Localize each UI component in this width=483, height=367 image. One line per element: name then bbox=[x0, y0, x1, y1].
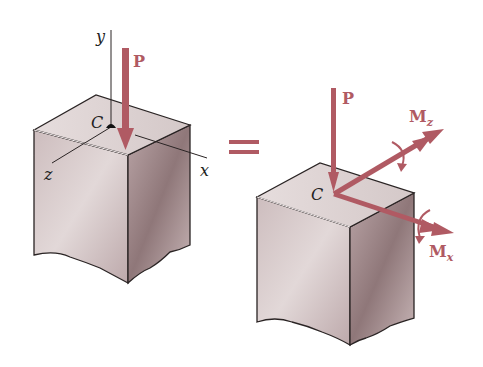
moment-mx-label: Mx bbox=[429, 242, 454, 264]
free-body-diagram: y P C x z P C Mz Mx bbox=[0, 0, 483, 367]
left-block bbox=[34, 95, 190, 283]
point-c-label-left: C bbox=[91, 113, 103, 132]
y-axis-label: y bbox=[95, 27, 106, 46]
force-p-label-left: P bbox=[133, 52, 145, 71]
force-p-label-right: P bbox=[342, 89, 354, 108]
diagram-canvas: y P C x z P C Mz Mx bbox=[0, 0, 483, 367]
moment-mz-label: Mz bbox=[409, 107, 434, 129]
point-c-label-right: C bbox=[311, 185, 323, 204]
moment-mz-arrow bbox=[334, 129, 444, 194]
z-axis-label: z bbox=[43, 165, 53, 184]
x-axis-label: x bbox=[200, 161, 209, 180]
force-p-arrow-right bbox=[328, 88, 339, 192]
equals-sign bbox=[229, 140, 259, 154]
